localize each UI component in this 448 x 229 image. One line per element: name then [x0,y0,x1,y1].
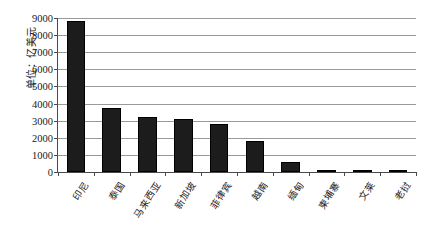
y-tick-label: 7000 [32,47,53,58]
bar [281,162,300,172]
x-tick-label: 缅甸 [284,178,307,203]
x-tick-mark [237,172,238,176]
x-tick-label: 老挝 [391,178,414,203]
x-tick-label: 新加坡 [171,178,199,212]
x-tick-label: 印尼 [69,178,92,203]
bar [67,21,86,172]
bar [317,170,336,172]
y-tick-label: 3000 [32,115,53,126]
x-tick-mark [58,172,59,176]
bar [210,124,229,172]
x-tick-mark [94,172,95,176]
x-tick-label: 马来西亚 [130,178,164,220]
y-tick-label: 4000 [32,98,53,109]
x-tick-mark [201,172,202,176]
bar [246,141,265,172]
x-tick-label: 柬埔寨 [314,178,342,212]
y-tick-label: 2000 [32,132,53,143]
x-tick-mark [130,172,131,176]
y-tick-label: 1000 [32,149,53,160]
bar [102,108,121,172]
y-tick-label: 0 [48,167,53,178]
x-tick-label: 泰国 [105,178,128,203]
y-tick-label: 6000 [32,64,53,75]
bars [58,18,416,172]
x-tick-label: 越南 [248,178,271,203]
y-tick-label: 8000 [32,30,53,41]
x-tick-label: 文莱 [355,178,378,203]
plot-area: 0100020003000400050006000700080009000 印尼… [57,18,416,173]
bar [353,170,372,172]
y-tick-label: 5000 [32,81,53,92]
bar [138,117,157,172]
x-tick-mark [309,172,310,176]
y-tick-label: 9000 [32,13,53,24]
x-tick-mark [165,172,166,176]
x-tick-mark [344,172,345,176]
bar [389,170,408,172]
x-tick-mark [273,172,274,176]
bar-chart: 单位：亿美元 010002000300040005000600070008000… [0,0,448,229]
bar [174,119,193,172]
x-tick-mark [380,172,381,176]
x-tick-mark [416,172,417,176]
x-tick-label: 菲律宾 [207,178,235,212]
